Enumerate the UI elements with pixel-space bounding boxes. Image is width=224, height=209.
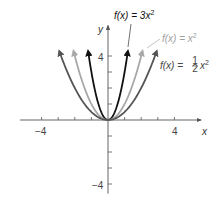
x-tick-label-4: 4 xyxy=(172,126,178,137)
svg-text:x2: x2 xyxy=(199,59,209,71)
annotation-x2: f(x) = x2 xyxy=(147,32,197,48)
annotation-half-x2-prefix: f(x) = xyxy=(160,60,183,71)
annotation-3x2-leader xyxy=(128,24,131,47)
annotation-x2-sup: 2 xyxy=(193,32,197,39)
y-tick-label-4: 4 xyxy=(98,52,104,63)
x-tick-label-neg4: −4 xyxy=(35,126,47,137)
annotation-half-x2: f(x) = 1 2 x2 xyxy=(160,55,209,74)
annotation-half-x2-sup: 2 xyxy=(205,59,209,66)
y-tick-label-neg4: −4 xyxy=(92,180,104,191)
parabola-chart: x y −4 4 4 −4 f(x) = 3x2 f(x) = x2 f(x) … xyxy=(0,0,224,209)
svg-text:f(x) =: f(x) = xyxy=(160,60,183,71)
svg-text:f(x) = x2: f(x) = x2 xyxy=(162,32,197,44)
annotation-x2-leader xyxy=(147,39,160,48)
axes xyxy=(20,26,201,194)
annotation-3x2-sup: 2 xyxy=(150,9,154,16)
svg-text:f(x) = 3x2: f(x) = 3x2 xyxy=(114,9,154,21)
y-axis-label: y xyxy=(97,24,104,35)
annotation-3x2-text: f(x) = 3x xyxy=(114,10,151,21)
annotation-half-x2-den: 2 xyxy=(192,63,198,74)
annotation-3x2: f(x) = 3x2 xyxy=(114,9,154,47)
annotation-x2-text: f(x) = x xyxy=(162,33,194,44)
x-axis-label: x xyxy=(201,126,208,137)
